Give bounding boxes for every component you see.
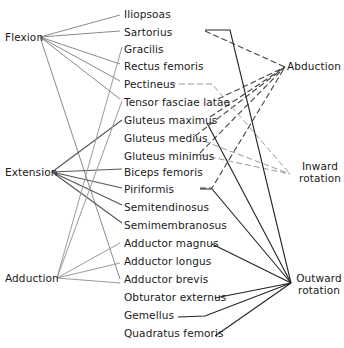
action-abduction: Abduction (287, 60, 341, 72)
inward-rotation-line1: Inward (296, 160, 344, 172)
outward-rotation-line2: rotation (294, 284, 344, 296)
muscle-gluteus-minimus: Gluteus minimus (124, 150, 214, 162)
adduction-lines (57, 47, 122, 283)
muscle-rectus-femoris: Rectus femoris (124, 60, 204, 72)
action-adduction: Adduction (5, 272, 59, 284)
muscle-sartorius: Sartorius (124, 26, 172, 38)
muscle-adductor-magnus: Adductor magnus (124, 237, 219, 249)
action-flexion: Flexion (5, 31, 43, 43)
muscle-semimembranosus: Semimembranosus (124, 219, 227, 231)
action-extension: Extension (5, 166, 57, 178)
muscle-piriformis: Piriformis (124, 183, 174, 195)
muscle-biceps-femoris: Biceps femoris (124, 166, 203, 178)
muscle-gracilis: Gracilis (124, 43, 164, 55)
muscle-tensor-fasciae-latae: Tensor fasciae latae (124, 96, 230, 108)
muscle-quadratus-femoris: Quadratus femoris (124, 327, 224, 339)
muscle-gemellus: Gemellus (124, 309, 174, 321)
inward-rotation-line2: rotation (296, 172, 344, 184)
abduction-lines (195, 31, 285, 188)
action-inward-rotation: Inward rotation (296, 160, 344, 184)
muscle-gluteus-medius: Gluteus medius (124, 132, 208, 144)
muscle-adductor-brevis: Adductor brevis (124, 273, 208, 285)
flexion-lines (40, 15, 120, 279)
muscle-pectineus: Pectineus (124, 78, 175, 90)
muscle-obturator-externus: Obturator externus (124, 291, 226, 303)
muscle-iliopsoas: Iliopsoas (124, 8, 171, 20)
outward-rotation-line1: Outward (294, 272, 344, 284)
muscle-gluteus-maximus: Gluteus maximus (124, 114, 217, 126)
muscle-semitendinosus: Semitendinosus (124, 201, 209, 213)
muscle-adductor-longus: Adductor longus (124, 255, 211, 267)
action-outward-rotation: Outward rotation (294, 272, 344, 296)
